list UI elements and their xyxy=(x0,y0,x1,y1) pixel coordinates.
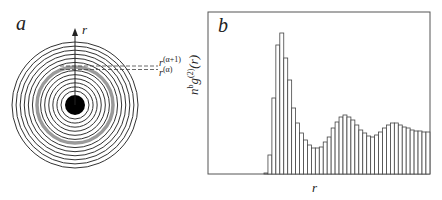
panel-b-label: b xyxy=(218,14,228,37)
shell-label-upper-sup: (α+1) xyxy=(163,55,181,64)
histogram-bar xyxy=(331,128,335,174)
ylabel-sup-2: (2) xyxy=(186,69,195,78)
histogram-bar xyxy=(410,130,414,174)
histogram-bar xyxy=(319,147,323,174)
histogram-bar xyxy=(406,128,410,174)
histogram-bar xyxy=(355,125,359,174)
histogram-bars xyxy=(264,33,430,174)
histogram-bar xyxy=(292,108,296,174)
histogram-bar xyxy=(272,98,276,174)
histogram-bar xyxy=(315,148,319,174)
histogram-bar xyxy=(426,132,430,174)
histogram-bar xyxy=(394,123,398,174)
histogram-bar xyxy=(335,122,339,174)
histogram-bar xyxy=(300,133,304,174)
histogram-bar xyxy=(402,127,406,174)
ylabel-g: g xyxy=(186,78,201,85)
histogram-bar xyxy=(276,45,280,174)
histogram-bar xyxy=(422,132,426,174)
histogram-bar xyxy=(327,137,331,174)
histogram-bar xyxy=(383,128,387,174)
histogram-bar xyxy=(264,173,268,174)
histogram-bar xyxy=(284,58,288,174)
histogram-bar xyxy=(379,132,383,174)
histogram-bar xyxy=(347,117,351,174)
histogram-bar xyxy=(268,155,272,174)
panel-a-axis-label: r xyxy=(82,22,87,38)
histogram-bar xyxy=(339,117,343,174)
histogram-bar xyxy=(390,123,394,174)
histogram-bar xyxy=(418,131,422,174)
y-axis-label: nbg(2)(r) xyxy=(186,55,202,95)
histogram-bar xyxy=(296,123,300,174)
histogram-bar xyxy=(323,142,327,174)
ylabel-sup-b: b xyxy=(186,85,195,89)
ylabel-r: (r) xyxy=(186,55,201,69)
histogram-bar xyxy=(414,131,418,174)
ylabel-n: n xyxy=(186,89,201,96)
histogram-bar xyxy=(351,120,355,174)
x-axis-label: r xyxy=(312,180,317,196)
histogram-bar xyxy=(359,130,363,174)
histogram-bar xyxy=(280,33,284,174)
histogram-bar xyxy=(288,80,292,174)
histogram-bar xyxy=(311,148,315,174)
histogram-bar xyxy=(367,136,371,174)
histogram-bar xyxy=(307,145,311,174)
histogram-bar xyxy=(343,115,347,174)
histogram-bar xyxy=(371,137,375,174)
histogram-bar xyxy=(363,133,367,174)
histogram-bar xyxy=(398,125,402,174)
shell-label-lower-sup: (α) xyxy=(163,65,173,74)
histogram-bar xyxy=(375,135,379,174)
histogram-bar xyxy=(304,140,308,174)
arrow-head-icon xyxy=(72,28,78,36)
shell-label-lower: r(α) xyxy=(159,65,172,78)
histogram-bar xyxy=(386,125,390,174)
